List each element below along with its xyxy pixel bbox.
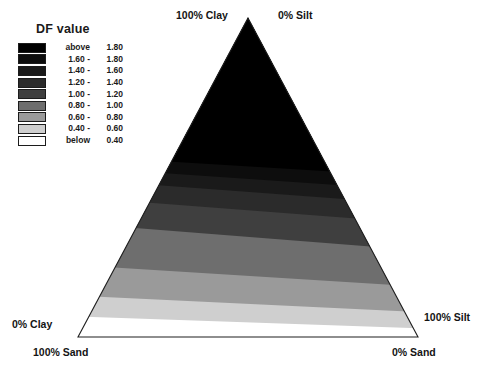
axis-label-silt-100: 100% Silt [424,311,470,323]
axis-label-clay-100: 100% Clay [176,9,228,21]
ternary-plot: 100% Clay 0% Silt 0% Clay 100% Sand 100%… [0,0,481,370]
axis-label-sand-0: 0% Sand [392,346,436,358]
axis-label-silt-0: 0% Silt [278,9,312,21]
contour-band-above-1.80 [60,0,440,178]
contour-bands [60,0,440,360]
axis-label-sand-100: 100% Sand [33,346,88,358]
axis-label-clay-0: 0% Clay [12,318,52,330]
ternary-contour-svg [0,0,481,370]
